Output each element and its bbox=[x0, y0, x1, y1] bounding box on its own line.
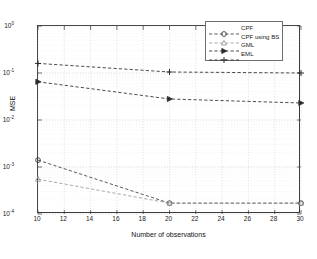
legend-symbol bbox=[208, 24, 240, 32]
data-point-marker bbox=[167, 69, 173, 75]
x-tick-label: 10 bbox=[33, 215, 40, 222]
legend-item: CPF bbox=[208, 24, 279, 33]
x-tick-label: 30 bbox=[296, 215, 303, 222]
data-point-marker bbox=[35, 60, 41, 66]
legend: CPFCPF using BSGMLEML bbox=[205, 21, 283, 61]
legend-item: GML bbox=[208, 41, 279, 50]
x-tick-label: 14 bbox=[86, 215, 93, 222]
x-tick-label: 24 bbox=[217, 215, 224, 222]
x-tick-label: 12 bbox=[60, 215, 67, 222]
x-tick-label: 20 bbox=[165, 215, 172, 222]
series-line bbox=[38, 160, 301, 203]
y-tick-label: 100 bbox=[0, 21, 14, 29]
legend-symbol bbox=[208, 33, 240, 41]
x-tick-label: 18 bbox=[139, 215, 146, 222]
y-axis-label: MSE bbox=[9, 59, 16, 149]
legend-symbol bbox=[208, 50, 240, 58]
figure: 10010-110-210-310-4 10121416182022242628… bbox=[0, 0, 317, 259]
x-axis-label: Number of observations bbox=[37, 231, 300, 238]
data-point-marker bbox=[36, 177, 41, 182]
data-point-marker bbox=[221, 57, 227, 63]
legend-label: EML bbox=[240, 50, 254, 59]
legend-label: GML bbox=[240, 41, 254, 50]
x-tick-label: 22 bbox=[191, 215, 198, 222]
legend-item: EML bbox=[208, 50, 279, 59]
x-tick-label: 16 bbox=[112, 215, 119, 222]
legend-symbol bbox=[208, 41, 240, 49]
y-tick-label: 10-3 bbox=[0, 162, 14, 170]
data-point-marker bbox=[167, 96, 172, 101]
legend-label: CPF bbox=[240, 24, 253, 33]
data-point-marker bbox=[299, 100, 304, 105]
legend-item: CPF using BS bbox=[208, 33, 279, 42]
x-tick-label: 26 bbox=[244, 215, 251, 222]
data-point-marker bbox=[298, 70, 304, 76]
legend-label: CPF using BS bbox=[240, 33, 279, 42]
y-tick-label: 10-4 bbox=[0, 209, 14, 217]
x-tick-label: 28 bbox=[270, 215, 277, 222]
data-point-marker bbox=[36, 79, 41, 84]
